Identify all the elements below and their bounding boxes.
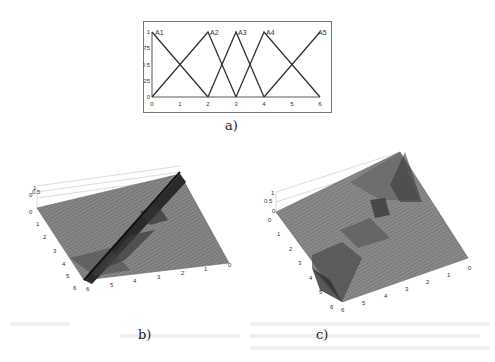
- svg-text:0: 0: [228, 262, 232, 268]
- svg-text:4: 4: [309, 275, 313, 281]
- svg-text:3: 3: [405, 286, 409, 292]
- svg-text:1: 1: [204, 266, 208, 272]
- svg-text:6: 6: [341, 307, 345, 313]
- svg-text:A4: A4: [266, 29, 275, 36]
- panel-a-membership-chart: 0 0.25 0.5 0.75 1 0 1 2 3 4 5 6 A1 A2 A3…: [143, 21, 332, 113]
- caption-a: a): [225, 118, 238, 133]
- svg-text:A3: A3: [238, 29, 247, 36]
- z-tick-labels: 0 0.5 1: [29, 185, 41, 198]
- svg-text:3: 3: [53, 248, 57, 254]
- svg-text:0.25: 0.25: [143, 78, 151, 84]
- svg-text:1: 1: [36, 221, 40, 227]
- svg-text:6: 6: [330, 304, 334, 310]
- panel-c-surface-plot: 0 0.5 1 0 1 2 3 4 5 6 6 5 4 3 2 1 0: [250, 140, 495, 330]
- svg-text:5: 5: [110, 282, 114, 288]
- membership-functions-plot: 0 0.25 0.5 0.75 1 0 1 2 3 4 5 6 A1 A2 A3…: [143, 21, 332, 113]
- svg-text:1: 1: [277, 231, 281, 237]
- svg-text:4: 4: [62, 261, 66, 267]
- panel-b-surface-plot: 0 0.5 1 0 1 2 3 4 5 6 6 5 4 3 2 1 0: [0, 150, 250, 320]
- svg-text:6: 6: [86, 286, 90, 292]
- svg-text:2: 2: [426, 279, 430, 285]
- svg-text:0: 0: [29, 209, 33, 215]
- z-tick-labels: 0 0.5 1: [264, 190, 276, 214]
- svg-text:5: 5: [362, 300, 366, 306]
- svg-text:3: 3: [157, 274, 161, 280]
- svg-text:0.5: 0.5: [143, 62, 151, 68]
- svg-text:2: 2: [43, 234, 47, 240]
- caption-c: c): [316, 327, 328, 342]
- svg-text:5: 5: [66, 273, 70, 279]
- svg-text:1: 1: [447, 272, 451, 278]
- caption-b: b): [138, 327, 151, 342]
- svg-text:2: 2: [289, 246, 293, 252]
- svg-text:0.5: 0.5: [264, 198, 273, 204]
- svg-text:0: 0: [272, 208, 276, 214]
- svg-text:1: 1: [271, 190, 275, 196]
- svg-text:A5: A5: [318, 29, 327, 36]
- svg-text:3: 3: [298, 260, 302, 266]
- svg-text:0.75: 0.75: [143, 45, 151, 51]
- svg-text:4: 4: [384, 293, 388, 299]
- svg-text:0: 0: [468, 265, 472, 271]
- svg-text:4: 4: [133, 278, 137, 284]
- svg-text:A1: A1: [155, 29, 164, 36]
- svg-text:2: 2: [181, 270, 185, 276]
- svg-text:6: 6: [73, 285, 77, 291]
- svg-text:0: 0: [268, 217, 272, 223]
- svg-text:A2: A2: [210, 29, 219, 36]
